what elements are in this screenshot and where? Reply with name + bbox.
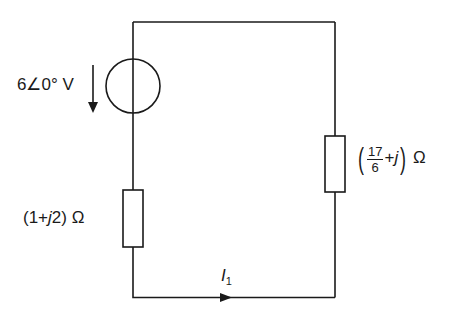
j-symbol: j <box>394 148 398 167</box>
left-impedance-rest: 2) Ω <box>52 208 85 227</box>
current-subscript: 1 <box>226 275 232 287</box>
ohm-unit: Ω <box>413 148 426 167</box>
plus-sign: + <box>384 148 394 167</box>
voltage-source-label: 6∠0° V <box>17 74 74 95</box>
right-impedance-icon <box>325 136 345 192</box>
left-impedance-label: (1+j2) Ω <box>23 208 84 228</box>
left-impedance-part: (1+ <box>23 208 48 227</box>
left-impedance-icon <box>123 190 143 247</box>
open-paren: ( <box>358 142 364 176</box>
fraction-denominator: 6 <box>367 160 383 174</box>
fraction: 176 <box>367 145 383 174</box>
current-label: I1 <box>221 266 232 287</box>
voltage-arrow-head-icon <box>88 102 98 113</box>
current-arrow-head-icon <box>220 293 232 302</box>
voltage-unit: V <box>62 75 73 94</box>
left-wire-bottom <box>133 247 335 298</box>
fraction-numerator: 17 <box>367 145 383 160</box>
close-paren: ) <box>400 142 406 176</box>
right-impedance-label: (176+j) Ω <box>356 142 426 176</box>
voltage-angle: ∠0° <box>26 75 57 94</box>
